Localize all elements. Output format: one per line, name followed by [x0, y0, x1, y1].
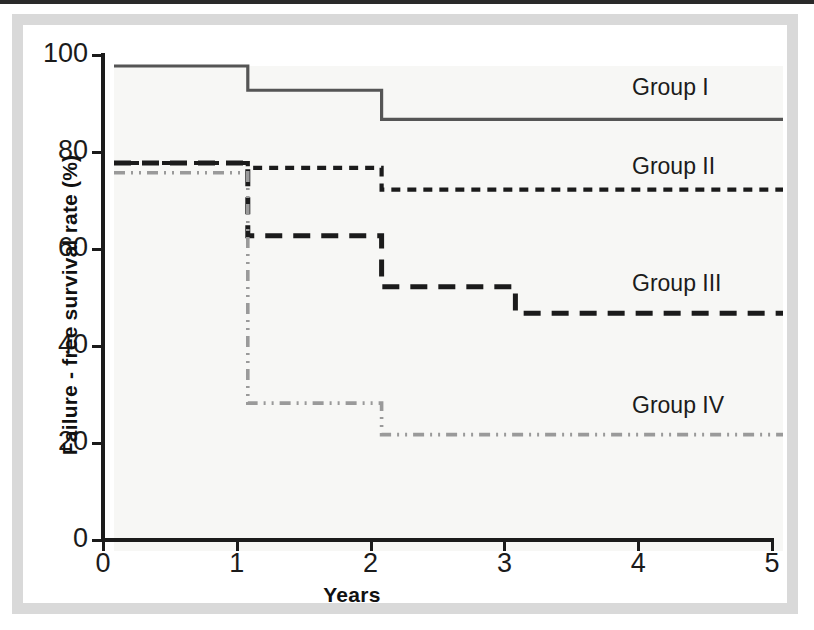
- series-label-group1: Group I: [632, 76, 709, 99]
- x-axis-title-text: Years: [323, 583, 381, 606]
- y-tick-mark: [92, 151, 103, 154]
- y-tick-mark: [92, 345, 103, 348]
- x-tick-label: 2: [351, 550, 391, 577]
- x-axis-line: [101, 538, 774, 542]
- x-axis-title: Years: [0, 583, 814, 607]
- y-axis-line: [101, 53, 105, 542]
- x-tick-label: 5: [752, 550, 792, 577]
- y-tick-mark: [92, 248, 103, 251]
- figure-frame: [12, 14, 798, 614]
- y-axis-title: Failure - free survival rate (%): [58, 55, 82, 555]
- x-tick-label: 0: [83, 550, 123, 577]
- y-tick-mark: [92, 54, 103, 57]
- x-tick-label: 3: [484, 550, 524, 577]
- series-label-group2: Group II: [632, 155, 715, 178]
- x-tick-label: 1: [217, 550, 257, 577]
- series-label-group4: Group IV: [632, 394, 724, 417]
- series-label-group3: Group III: [632, 272, 721, 295]
- page-top-rule: [0, 0, 814, 4]
- x-tick-label: 4: [618, 550, 658, 577]
- figure-root: 020406080100 012345 Years Failure - free…: [0, 0, 814, 630]
- y-tick-mark: [92, 442, 103, 445]
